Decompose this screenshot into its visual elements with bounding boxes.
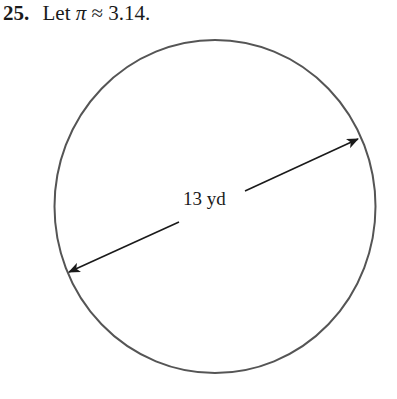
diameter-arrow-upper	[245, 139, 358, 191]
diameter-label: 13 yd	[183, 188, 226, 210]
diameter-arrow-lower	[69, 222, 179, 272]
